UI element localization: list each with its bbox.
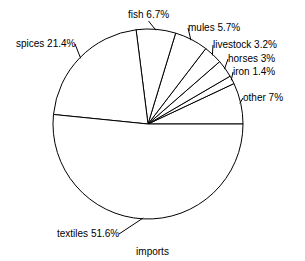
- slice-label-horses: horses 3%: [228, 53, 275, 65]
- slice-label-livestock: livestock 3.2%: [213, 39, 277, 51]
- slice-label-iron: iron 1.4%: [233, 66, 275, 78]
- pie-slice-textiles[interactable]: [53, 114, 243, 219]
- slice-label-fish: fish 6.7%: [128, 9, 169, 21]
- slice-label-other: other 7%: [243, 92, 283, 104]
- slice-label-textiles: textiles 51.6%: [57, 228, 119, 240]
- pie-slice-group: [53, 29, 243, 219]
- slice-label-mules: mules 5.7%: [188, 22, 240, 34]
- leader-line-spices: [75, 44, 81, 58]
- leader-line-textiles: [119, 218, 143, 234]
- pie-chart-figure: other 7%iron 1.4%horses 3%livestock 3.2%…: [0, 0, 305, 261]
- chart-caption: imports: [0, 246, 305, 257]
- slice-label-spices: spices 21.4%: [16, 38, 75, 50]
